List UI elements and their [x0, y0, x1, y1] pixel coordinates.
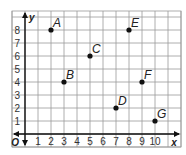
point-label: C: [92, 42, 101, 56]
x-tick-label: 4: [74, 136, 80, 147]
y-tick-label: 8: [14, 25, 20, 36]
grid-border: [12, 11, 181, 147]
y-axis-arrow-down-icon: [22, 140, 28, 146]
point-label: E: [131, 16, 140, 30]
point-label: B: [66, 68, 74, 82]
x-tick-label: 2: [48, 136, 54, 147]
x-tick-label: 9: [139, 136, 145, 147]
tick-labels: 1234567891012345678Oxy: [11, 12, 177, 148]
y-tick-label: 4: [14, 77, 20, 88]
x-axis-label: x: [170, 137, 177, 148]
point-label: D: [118, 94, 127, 108]
x-tick-label: 6: [100, 136, 106, 147]
grid-lines: [12, 11, 181, 147]
y-tick-label: 5: [14, 64, 20, 75]
x-tick-label: 10: [149, 136, 161, 147]
point-label: F: [144, 68, 152, 82]
x-tick-label: 7: [113, 136, 119, 147]
y-axis-label: y: [28, 12, 35, 23]
y-tick-label: 6: [14, 51, 20, 62]
x-tick-label: 3: [61, 136, 67, 147]
origin-label: O: [11, 137, 19, 148]
y-tick-label: 3: [14, 90, 20, 101]
point-label: G: [157, 107, 166, 121]
y-tick-label: 7: [14, 38, 20, 49]
data-points: ABCDEFG: [48, 16, 166, 124]
point-label: A: [52, 16, 61, 30]
y-tick-label: 2: [14, 103, 20, 114]
y-axis-arrow-up-icon: [22, 12, 28, 18]
coordinate-grid: 1234567891012345678Oxy ABCDEFG: [0, 0, 186, 155]
x-tick-label: 1: [35, 136, 41, 147]
y-tick-label: 1: [14, 116, 20, 127]
x-tick-label: 8: [126, 136, 132, 147]
x-tick-label: 5: [87, 136, 93, 147]
